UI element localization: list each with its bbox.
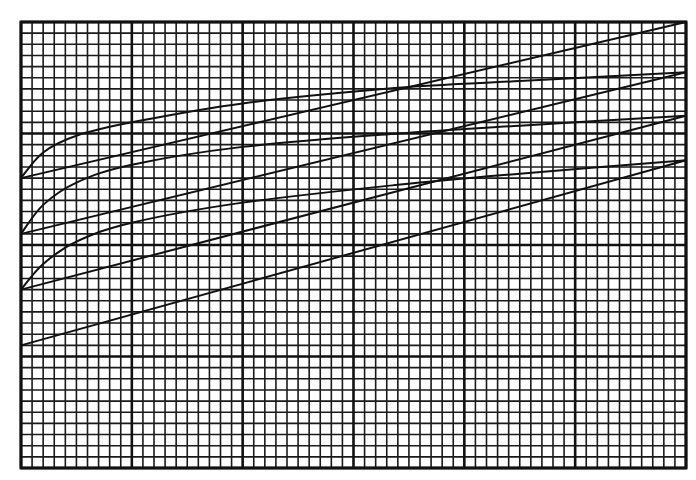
graph-paper-chart <box>0 0 696 480</box>
